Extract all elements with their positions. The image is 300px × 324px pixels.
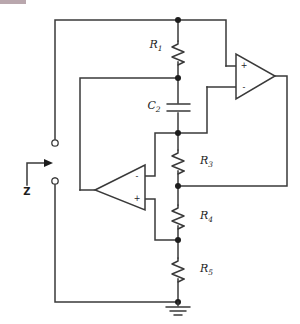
resistor-r3-label: R3: [199, 154, 213, 169]
resistor-r5-label: R5: [199, 262, 213, 277]
opamp-a1-plus-sign: +: [241, 61, 248, 70]
terminal-top[interactable]: [52, 140, 58, 146]
node-dot-r1-c2: [175, 75, 181, 81]
port-terminals: [52, 140, 58, 184]
node-dot-r4-r5: [175, 237, 181, 243]
resistor-r1-label: R1: [148, 38, 162, 53]
impedance-arrow-shaft: [27, 163, 44, 185]
resistor-r1: R1: [148, 38, 184, 65]
capacitor-c2: C2: [147, 99, 190, 114]
wire-top-node-to-opamp1-plus: [178, 20, 226, 66]
node-dot-top: [175, 17, 181, 23]
node-dot-r3-r4: [175, 183, 181, 189]
impedance-arrow-head-icon: [44, 159, 53, 167]
wire-opamp2-plus-to-r4r5-node: [145, 199, 178, 240]
opamp-a2-minus-sign: -: [136, 172, 139, 181]
opamp-a2-plus-sign: +: [134, 194, 141, 203]
ground-symbol: [166, 302, 190, 315]
opamp-a1: + -: [236, 54, 275, 99]
impedance-annotation: Z: [23, 159, 53, 197]
circuit-schematic-canvas: R1 C2 R3 R4: [0, 0, 300, 324]
circuit-diagram-figure: R1 C2 R3 R4: [0, 0, 300, 324]
capacitor-c2-label: C2: [147, 99, 160, 114]
page-corner-mark: [0, 0, 26, 4]
wire-opamp1-minus-to-c2r3-node: [178, 87, 207, 133]
node-dot-c2-r3: [175, 130, 181, 136]
wire-c2r3-node-to-opamp2-minus: [145, 133, 178, 176]
terminal-bottom[interactable]: [52, 178, 58, 184]
resistor-r4-label: R4: [199, 209, 213, 224]
impedance-z-label: Z: [23, 186, 30, 197]
wire-top-rail-to-terminal1: [55, 20, 178, 140]
opamp-a2: - +: [95, 165, 145, 210]
wire-opamp1-output-to-r3r4-node: [178, 76, 287, 186]
opamp-a1-minus-sign: -: [243, 83, 246, 92]
